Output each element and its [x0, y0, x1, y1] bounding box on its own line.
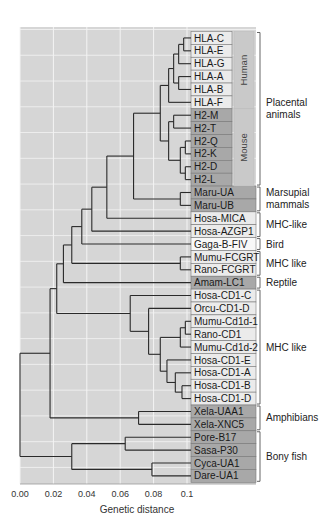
- leaf-label-text: HLA-C: [194, 33, 224, 44]
- x-axis: Genetic distance 0.000.020.040.060.080.1: [11, 484, 256, 515]
- group-label: Bird: [266, 239, 284, 250]
- leaf-label-text: HLA-G: [194, 58, 225, 69]
- species-side-columns: HumanMouse: [234, 32, 254, 187]
- leaf-label-text: H2-K: [194, 148, 217, 159]
- leaf-label-text: Rano-CD1: [194, 329, 242, 340]
- side-column-label: Human: [239, 55, 250, 86]
- group-bracket: MHC like: [257, 251, 307, 275]
- leaf-label-text: Mumu-FCGRT: [194, 252, 259, 263]
- leaf-label: Gaga-B-FIV: [191, 238, 256, 251]
- leaf-label: Amam-LC1: [191, 276, 256, 289]
- leaf-label: HLA-A: [191, 70, 232, 83]
- leaf-label: Rano-FCGRT: [191, 263, 256, 276]
- x-tick-label: 0.1: [181, 489, 194, 499]
- group-bracket: Amphibians: [257, 406, 318, 430]
- x-tick-label: 0.06: [111, 489, 129, 499]
- leaf-label: Mumu-Cd1d-2: [191, 341, 258, 354]
- leaf-label-text: Pore-B17: [194, 432, 237, 443]
- leaf-label-text: Hosa-CD1-C: [194, 290, 251, 301]
- leaf-label: HLA-G: [191, 57, 232, 70]
- leaf-label: H2-D: [191, 160, 232, 173]
- x-tick-label: 0.08: [145, 489, 163, 499]
- x-axis-title: Genetic distance: [100, 504, 175, 515]
- leaf-label-text: Hosa-CD1-E: [194, 355, 251, 366]
- side-column-human: Human: [234, 32, 254, 109]
- side-column-label: Mouse: [239, 133, 250, 162]
- leaf-label-text: Dare-UA1: [194, 470, 239, 481]
- leaf-label-text: H2-D: [194, 161, 217, 172]
- group-bracket: Bird: [257, 239, 284, 250]
- leaf-label: Sasa-P30: [191, 444, 256, 457]
- leaf-label-text: Mumu-Cd1d-2: [194, 342, 258, 353]
- group-label: Placental: [266, 97, 307, 108]
- leaf-label-text: Hosa-AZGP1: [194, 226, 254, 237]
- leaf-label-text: H2-Q: [194, 136, 218, 147]
- leaf-label-text: Gaga-B-FIV: [194, 239, 248, 250]
- group-label: Reptile: [266, 277, 298, 288]
- leaf-label-text: Hosa-MICA: [194, 213, 246, 224]
- group-label: MHC like: [266, 258, 307, 269]
- group-brackets: PlacentalanimalsMarsupialmammalsMHC-like…: [257, 33, 318, 482]
- leaf-label: Mumu-FCGRT: [191, 250, 259, 263]
- leaf-label: Orcu-CD1-D: [191, 302, 256, 315]
- leaf-label-text: HLA-A: [194, 71, 224, 82]
- leaf-label-text: Amam-LC1: [194, 277, 245, 288]
- leaf-label-text: HLA-F: [194, 97, 223, 108]
- group-label: Amphibians: [266, 412, 318, 423]
- leaf-label-text: Hosa-CD1-A: [194, 367, 251, 378]
- leaf-label: H2-M: [191, 109, 232, 122]
- leaf-label-text: HLA-E: [194, 45, 224, 56]
- group-bracket: MHC-like: [257, 213, 308, 237]
- leaf-label: H2-T: [191, 122, 232, 135]
- leaf-label: Cyca-UA1: [191, 457, 256, 470]
- leaf-label-text: Maru-UA: [194, 187, 234, 198]
- group-bracket: Bony fish: [257, 432, 307, 482]
- leaf-label: HLA-B: [191, 83, 232, 96]
- leaf-label-text: H2-T: [194, 123, 216, 134]
- leaf-label: Xela-XNC5: [191, 418, 256, 431]
- leaf-label-text: Hosa-CD1-B: [194, 380, 251, 391]
- x-tick-label: 0.02: [45, 489, 63, 499]
- group-label: MHC-like: [266, 219, 308, 230]
- leaf-label-text: Hosa-CD1-D: [194, 393, 251, 404]
- leaf-label-text: Xela-UAA1: [194, 406, 244, 417]
- leaf-label: Maru-UA: [191, 186, 256, 199]
- leaf-label: H2-K: [191, 147, 232, 160]
- leaf-label-text: Cyca-UA1: [194, 458, 240, 469]
- leaf-label-text: Rano-FCGRT: [194, 264, 256, 275]
- leaf-label: Hosa-AZGP1: [191, 225, 256, 238]
- leaf-label: H2-Q: [191, 135, 232, 148]
- leaf-label-text: Mumu-Cd1d-1: [194, 316, 258, 327]
- leaf-label-text: Sasa-P30: [194, 445, 238, 456]
- leaf-label: H2-L: [191, 173, 232, 186]
- leaf-label-text: HLA-B: [194, 84, 224, 95]
- leaf-label: Dare-UA1: [191, 469, 256, 482]
- x-tick-label: 0.04: [78, 489, 96, 499]
- group-bracket: MHC like: [257, 290, 307, 404]
- leaf-label: Hosa-MICA: [191, 212, 256, 225]
- leaf-label: Maru-UB: [191, 199, 256, 212]
- leaf-label: HLA-E: [191, 44, 232, 57]
- leaf-label: Xela-UAA1: [191, 405, 256, 418]
- group-bracket: Placentalanimals: [257, 33, 307, 186]
- group-label: animals: [266, 109, 300, 120]
- leaf-label: Hosa-CD1-A: [191, 366, 256, 379]
- group-label: mammals: [266, 199, 309, 210]
- leaf-label-text: H2-M: [194, 110, 218, 121]
- leaf-label: Rano-CD1: [191, 328, 256, 341]
- leaf-label: Hosa-CD1-C: [191, 289, 256, 302]
- leaf-label: HLA-F: [191, 96, 232, 109]
- group-bracket: Reptile: [257, 277, 298, 288]
- group-label: Bony fish: [266, 451, 307, 462]
- leaf-label-text: Xela-XNC5: [194, 419, 244, 430]
- leaf-label-text: Maru-UB: [194, 200, 234, 211]
- leaf-label: Pore-B17: [191, 431, 256, 444]
- side-column-mouse: Mouse: [234, 109, 254, 186]
- leaf-label: Hosa-CD1-B: [191, 379, 256, 392]
- group-bracket: Marsupialmammals: [257, 187, 309, 211]
- leaf-label: HLA-C: [191, 32, 232, 45]
- x-tick-label: 0.00: [11, 489, 29, 499]
- dendrogram-figure: HLA-CHLA-EHLA-GHLA-AHLA-BHLA-FH2-MH2-TH2…: [0, 0, 330, 524]
- leaf-label-text: Orcu-CD1-D: [194, 303, 250, 314]
- group-label: MHC like: [266, 342, 307, 353]
